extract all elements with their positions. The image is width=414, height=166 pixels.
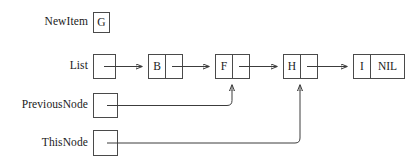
this-node-pointer-box (93, 130, 118, 156)
new-item-box: G (93, 12, 110, 33)
previous-node-label: PreviousNode (0, 99, 88, 111)
this-node-label: ThisNode (0, 137, 88, 149)
list-node-i-link: NIL (371, 55, 404, 78)
list-node-f: F (215, 54, 250, 79)
list-node-i: I NIL (353, 54, 405, 79)
arrow-thisnode-to-h (107, 85, 300, 143)
new-item-label: NewItem (0, 16, 88, 28)
list-label: List (0, 60, 88, 72)
list-node-i-data: I (354, 55, 371, 78)
list-node-h-link (301, 55, 317, 78)
list-node-b-data: B (149, 55, 166, 78)
list-node-h-data: H (284, 55, 301, 78)
list-pointer-box (93, 54, 116, 79)
new-item-value: G (94, 13, 109, 32)
arrow-previousnode-to-f (107, 85, 232, 106)
list-node-f-data: F (216, 55, 233, 78)
list-node-b: B (148, 54, 183, 79)
list-node-f-link (233, 55, 249, 78)
linked-list-diagram: NewItem G List B F H I NIL PreviousNode … (0, 0, 414, 166)
list-node-b-link (166, 55, 182, 78)
list-node-h: H (283, 54, 318, 79)
previous-node-pointer-box (93, 93, 118, 118)
